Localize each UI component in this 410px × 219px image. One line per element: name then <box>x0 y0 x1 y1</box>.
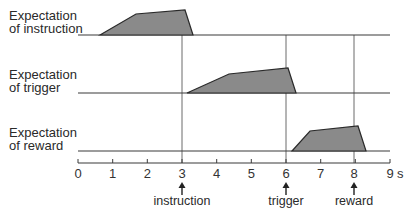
tick-label: 3 <box>178 166 185 181</box>
expectation-shape-instruction <box>100 10 193 35</box>
event-label-trigger: trigger <box>268 194 303 208</box>
axis-unit: s <box>397 166 404 181</box>
event-label-instruction: instruction <box>154 194 211 208</box>
expectation-shape-trigger <box>187 68 296 93</box>
tick-label: 4 <box>213 166 220 181</box>
tick-label: 7 <box>317 166 324 181</box>
tick-label: 9 <box>386 166 393 181</box>
tick-label: 6 <box>282 166 289 181</box>
tick-label: 8 <box>350 166 357 181</box>
tick-label: 1 <box>109 166 116 181</box>
event-label-reward: reward <box>335 194 373 208</box>
tick-label: 0 <box>74 166 81 181</box>
tick-label: 2 <box>144 166 151 181</box>
timeline-diagram: 0 1 2 3 4 5 6 7 8 9 s instruction trigge… <box>0 0 410 219</box>
expectation-shape-reward <box>292 126 366 151</box>
tick-label: 5 <box>248 166 255 181</box>
